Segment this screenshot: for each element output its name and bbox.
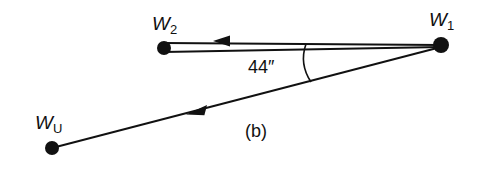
vertex-label-w2-base: W xyxy=(152,13,170,34)
vertex-label-wu-base: W xyxy=(35,112,53,133)
beam-w1-to-w2-lower-rail xyxy=(164,47,441,52)
diagram-canvas xyxy=(0,0,480,169)
vertex-label-w2-subscript: 2 xyxy=(170,22,177,37)
vertex-label-wu-subscript: U xyxy=(53,121,62,136)
vertex-dot-w1 xyxy=(433,37,449,53)
angle-measure-label: 44″ xyxy=(248,58,274,76)
arrowhead-toward-wu xyxy=(186,105,207,115)
vertex-dot-w2 xyxy=(157,41,171,55)
beam-w1-to-w2-upper-rail xyxy=(164,43,441,45)
vertex-label-wu: WU xyxy=(35,113,62,132)
vertex-dot-wu xyxy=(45,141,59,155)
vertex-label-w1-subscript: 1 xyxy=(447,18,454,33)
arrowhead-toward-w2 xyxy=(213,36,230,47)
vertex-label-w1: W1 xyxy=(429,10,454,29)
vertex-label-w1-base: W xyxy=(429,9,447,30)
panel-caption: (b) xyxy=(245,122,267,140)
figure-panel-b: W2 W1 WU 44″ (b) xyxy=(0,0,480,169)
vertex-label-w2: W2 xyxy=(152,14,177,33)
beam-w1-to-w2 xyxy=(164,36,441,53)
